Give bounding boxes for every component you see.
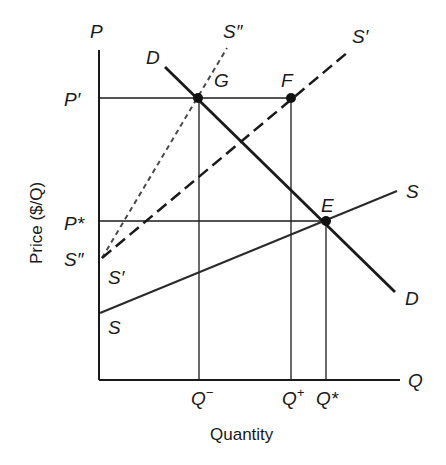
label-s-prime-left: S′	[108, 267, 126, 288]
label-d-bottom: D	[405, 288, 419, 309]
supply-curve-s-double-prime	[102, 48, 227, 258]
label-s-right: S	[406, 181, 419, 202]
quantity-label-q-plus: Q+	[282, 385, 305, 409]
point-e	[321, 216, 331, 226]
label-s-double-prime-left: S″	[64, 249, 85, 270]
label-s-left: S	[108, 317, 121, 338]
x-axis-title: Quantity	[210, 425, 274, 444]
price-label-p-star: P*	[64, 213, 85, 234]
y-axis-symbol: P	[90, 21, 103, 42]
label-d-top: D	[146, 47, 160, 68]
supply-demand-diagram: P Q P′ P* S″ S′ S D S″ S′ S D G F E Q− Q…	[0, 0, 446, 465]
label-point-g: G	[214, 70, 229, 91]
label-point-f: F	[281, 70, 294, 91]
point-g	[193, 93, 203, 103]
price-label-p-prime: P′	[64, 89, 82, 110]
label-s-prime-top: S′	[352, 26, 370, 47]
y-axis-title: Price ($/Q)	[27, 182, 46, 264]
point-f	[286, 93, 296, 103]
x-axis-symbol: Q	[408, 370, 423, 391]
label-point-e: E	[321, 195, 334, 216]
quantity-label-q-minus: Q−	[191, 385, 214, 409]
quantity-label-q-star: Q*	[316, 388, 339, 409]
label-s-double-prime-top: S″	[223, 21, 244, 42]
